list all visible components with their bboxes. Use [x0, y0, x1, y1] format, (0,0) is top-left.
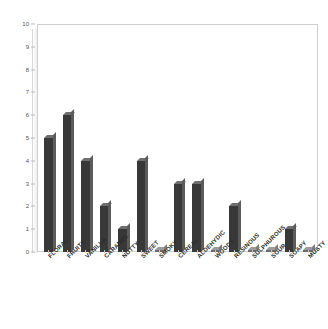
bar-slot	[137, 24, 146, 252]
bar-slot	[174, 24, 183, 252]
y-axis-tick-mark	[31, 138, 35, 139]
y-axis-tick-mark	[31, 252, 35, 253]
bar	[44, 138, 53, 252]
y-axis-tick-mark	[31, 183, 35, 184]
y-axis-tick-label: 9	[26, 44, 29, 50]
bar-chart: 109876543210 FLORALFRUITYVANILLACARAMELN…	[0, 0, 328, 329]
bar-slot	[118, 24, 127, 252]
y-axis-tick-label: 1	[26, 226, 29, 232]
bar	[63, 115, 72, 252]
bar-slot	[229, 24, 238, 252]
y-axis-tick-label: 5	[26, 135, 29, 141]
bars-container	[39, 24, 317, 252]
bar-slot	[303, 24, 312, 252]
bar-slot	[81, 24, 90, 252]
y-axis-tick-label: 7	[26, 89, 29, 95]
bar-slot	[100, 24, 109, 252]
bar-slot	[192, 24, 201, 252]
bar	[137, 161, 146, 252]
bar-slot	[63, 24, 72, 252]
y-axis-tick-label: 8	[26, 67, 29, 73]
y-axis-tick-mark	[31, 46, 35, 47]
bar-slot	[211, 24, 220, 252]
y-axis-tick-label: 4	[26, 158, 29, 164]
bar-slot	[44, 24, 53, 252]
y-axis-tick-mark	[31, 69, 35, 70]
y-axis-tick-mark	[31, 206, 35, 207]
y-axis-tick-mark	[31, 24, 35, 25]
y-axis-tick-label: 0	[26, 249, 29, 255]
bar-slot	[155, 24, 164, 252]
y-axis-tick-mark	[31, 160, 35, 161]
bar-slot	[266, 24, 275, 252]
y-axis: 109876543210	[0, 24, 37, 252]
y-axis-tick-label: 6	[26, 112, 29, 118]
bar	[285, 229, 294, 252]
x-axis-labels: FLORALFRUITYVANILLACARAMELNUTTYSWEETSMOK…	[39, 252, 317, 329]
y-axis-tick-mark	[31, 229, 35, 230]
bar-slot	[248, 24, 257, 252]
y-axis-tick-label: 3	[26, 181, 29, 187]
y-axis-tick-mark	[31, 115, 35, 116]
bar-slot	[285, 24, 294, 252]
y-axis-tick-label: 10	[22, 21, 29, 27]
y-axis-tick-mark	[31, 92, 35, 93]
y-axis-tick-label: 2	[26, 203, 29, 209]
